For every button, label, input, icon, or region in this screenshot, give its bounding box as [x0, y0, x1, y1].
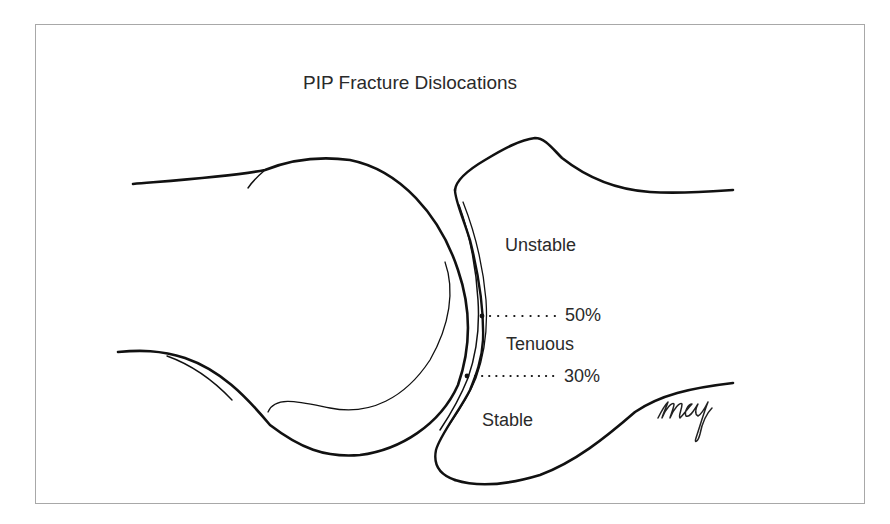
threshold-50-point — [480, 314, 485, 319]
artist-signature-icon — [654, 386, 734, 456]
middle-phalanx-dorsal-line — [455, 138, 733, 193]
threshold-label-30: 30% — [564, 366, 600, 387]
threshold-30-point — [465, 374, 470, 379]
zone-label-tenuous: Tenuous — [506, 334, 574, 355]
zone-label-stable: Stable — [482, 410, 533, 431]
proximal-phalanx-dorsal-line — [118, 158, 468, 455]
threshold-label-50: 50% — [565, 305, 601, 326]
diagram-title: PIP Fracture Dislocations — [303, 72, 517, 94]
condyle-inner-contour — [268, 262, 450, 412]
zone-label-unstable: Unstable — [505, 235, 576, 256]
